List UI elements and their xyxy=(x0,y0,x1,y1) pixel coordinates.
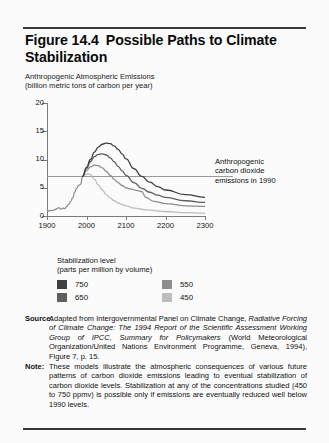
legend-item-750: 750 xyxy=(57,280,88,289)
series-line-historical-emissions xyxy=(47,176,83,211)
legend-label-650: 650 xyxy=(75,293,88,302)
x-tick-label-2100: 2100 xyxy=(118,221,135,230)
figure-page: Figure 14.4Possible Paths to Climate Sta… xyxy=(0,0,329,443)
legend-items: 750650550450 xyxy=(57,280,247,306)
note-label: Note: xyxy=(25,362,44,371)
x-tick-label-1900: 1900 xyxy=(39,221,56,230)
legend-label-550: 550 xyxy=(180,280,193,289)
legend-item-450: 450 xyxy=(162,293,193,302)
legend-label-450: 450 xyxy=(180,293,193,302)
legend-swatch-550 xyxy=(162,280,172,289)
source-label: Source: xyxy=(25,314,53,323)
y-tick-label-15: 15 xyxy=(36,126,44,135)
y-tick-label-10: 10 xyxy=(36,154,44,163)
legend-item-650: 650 xyxy=(57,293,88,302)
explanatory-note: Note:These models illustrate the atmosph… xyxy=(25,362,307,409)
top-rule xyxy=(23,27,306,29)
x-tick-1900 xyxy=(47,216,48,220)
x-tick-2200 xyxy=(166,216,167,220)
x-tick-2300 xyxy=(205,216,206,220)
x-tick-label-2000: 2000 xyxy=(78,221,95,230)
emissions-chart: 05101520 19002000210022002300 Anthropoge… xyxy=(25,95,305,230)
legend-item-550: 550 xyxy=(162,280,193,289)
source-text-1: Adapted from Intergovernmental Panel on … xyxy=(49,314,246,323)
reference-line-annotation: Anthropogenic carbon dioxide emissions i… xyxy=(215,157,276,185)
legend-title-line-1: Stabilization level xyxy=(57,256,257,265)
x-tick-label-2200: 2200 xyxy=(157,221,174,230)
annotation-line-2: carbon dioxide xyxy=(215,166,276,175)
chart-legend: Stabilization level (parts per million b… xyxy=(57,256,257,306)
note-text: These models illustrate the atmospheric … xyxy=(49,362,307,409)
legend-title-line-2: (parts per million by volume) xyxy=(57,265,257,274)
figure-notes: Source:Adapted from Intergovernmental Pa… xyxy=(25,314,307,409)
legend-title: Stabilization level (parts per million b… xyxy=(57,256,257,275)
annotation-line-3: emissions in 1990 xyxy=(215,176,276,185)
figure-number: Figure 14.4 xyxy=(25,32,99,48)
legend-swatch-650 xyxy=(57,293,67,302)
bottom-rule xyxy=(23,428,306,430)
caption-line-1: Anthropogenic Atmospheric Emissions xyxy=(25,72,285,81)
legend-label-750: 750 xyxy=(75,280,88,289)
chart-caption: Anthropogenic Atmospheric Emissions (bil… xyxy=(25,72,285,91)
legend-swatch-450 xyxy=(162,293,172,302)
source-note: Source:Adapted from Intergovernmental Pa… xyxy=(25,314,307,361)
annotation-line-1: Anthropogenic xyxy=(215,157,276,166)
caption-line-2: (billion metric tons of carbon per year) xyxy=(25,81,285,90)
emissions-curves xyxy=(47,103,205,216)
y-tick-label-20: 20 xyxy=(36,98,44,107)
legend-swatch-750 xyxy=(57,280,67,289)
figure-title: Figure 14.4Possible Paths to Climate Sta… xyxy=(25,32,310,65)
x-tick-2000 xyxy=(87,216,88,220)
x-tick-label-2300: 2300 xyxy=(197,221,214,230)
y-tick-label-0: 0 xyxy=(40,211,44,220)
x-tick-2100 xyxy=(126,216,127,220)
y-tick-label-5: 5 xyxy=(40,182,44,191)
